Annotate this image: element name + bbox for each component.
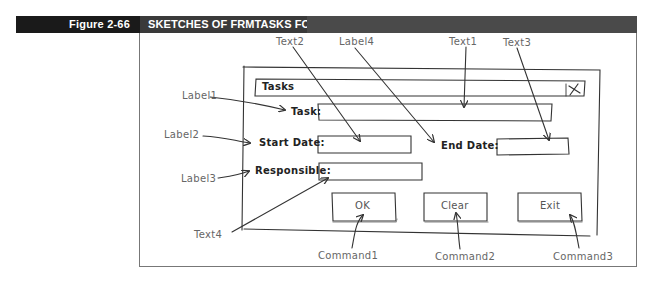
sketch-lines (0, 0, 660, 283)
exit-button-sketch: Exit (540, 200, 560, 211)
clear-button-sketch: Clear (441, 200, 469, 211)
annotation-text3: Text3 (503, 37, 531, 48)
annotation-command3: Command3 (553, 251, 613, 262)
annotation-label4: Label4 (339, 36, 374, 47)
annotation-label1: Label1 (182, 90, 217, 101)
annotation-command2: Command2 (435, 251, 495, 262)
annotation-text2: Text2 (276, 36, 304, 47)
form-title-tasks: Tasks (262, 81, 294, 92)
annotation-label3: Label3 (181, 173, 216, 184)
task-label: Task: (291, 106, 321, 117)
start-date-label: Start Date: (259, 137, 325, 148)
responsible-label: Responsible: (255, 165, 331, 176)
annotation-label2: Label2 (164, 129, 199, 140)
annotation-text4: Text4 (194, 229, 222, 240)
annotation-text1: Text1 (449, 36, 477, 47)
annotation-command1: Command1 (318, 250, 378, 261)
end-date-label: End Date: (441, 140, 499, 151)
ok-button-sketch: OK (355, 200, 370, 211)
